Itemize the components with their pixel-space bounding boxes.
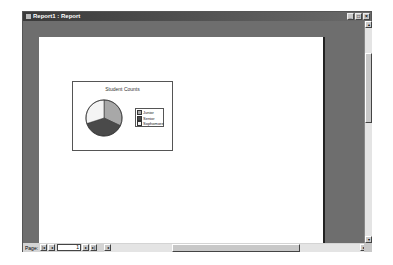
- previous-page-button[interactable]: ◂: [48, 244, 55, 251]
- first-page-button[interactable]: |◂: [40, 244, 47, 251]
- minimize-button[interactable]: _: [347, 13, 354, 20]
- vertical-scroll-thumb[interactable]: [365, 53, 372, 123]
- last-page-button[interactable]: ▸|: [90, 244, 97, 251]
- scroll-left-button[interactable]: ◂: [104, 244, 111, 251]
- close-button[interactable]: ×: [363, 13, 370, 20]
- legend-swatch: [137, 116, 142, 121]
- page-label: Page:: [23, 245, 40, 251]
- next-page-button[interactable]: ▸: [82, 244, 89, 251]
- legend-swatch: [137, 110, 142, 115]
- maximize-button[interactable]: □: [355, 13, 362, 20]
- page-number-input[interactable]: 1: [57, 244, 81, 251]
- horizontal-scroll-thumb[interactable]: [172, 244, 300, 252]
- pie-chart: Student Counts Junior Senior Sophomore: [72, 81, 173, 151]
- legend-item-sophomore: Sophomore: [137, 121, 162, 127]
- report-icon: [26, 14, 31, 19]
- horizontal-scrollbar[interactable]: ◂ ▸: [104, 244, 367, 252]
- print-preview-area: Student Counts Junior Senior Sophomore: [23, 21, 364, 243]
- legend-label: Sophomore: [143, 121, 164, 126]
- window-title: Report1 : Report: [33, 13, 80, 19]
- size-grip[interactable]: [364, 243, 372, 252]
- chart-title: Student Counts: [73, 86, 172, 92]
- chart-legend: Junior Senior Sophomore: [135, 108, 164, 127]
- pie-plot: [85, 99, 123, 137]
- report-page: Student Counts Junior Senior Sophomore: [39, 37, 323, 243]
- title-bar[interactable]: Report1 : Report _ □ ×: [23, 12, 371, 21]
- scroll-up-button[interactable]: ▴: [365, 21, 372, 28]
- vertical-scrollbar[interactable]: ▴ ▾: [364, 21, 372, 243]
- legend-label: Senior: [143, 116, 155, 121]
- report-window: Report1 : Report _ □ × Student Counts Ju…: [22, 11, 372, 252]
- legend-swatch: [137, 121, 142, 126]
- legend-label: Junior: [143, 110, 154, 115]
- window-controls: _ □ ×: [347, 13, 370, 20]
- scroll-down-button[interactable]: ▾: [365, 236, 372, 243]
- navigation-bar: Page: |◂ ◂ 1 ▸ ▸| ◂ ▸: [23, 243, 372, 252]
